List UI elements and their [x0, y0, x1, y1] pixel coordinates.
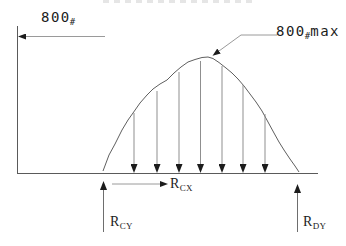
- reaction-dy-base: R: [303, 214, 313, 229]
- reaction-cx-base: R: [170, 176, 180, 191]
- reaction-cy-base: R: [110, 214, 120, 229]
- reaction-label-cy: RCY: [110, 215, 133, 229]
- pound-symbol: #: [70, 17, 75, 27]
- reaction-label-dy: RDY: [303, 215, 326, 229]
- reaction-cx-subscript: CX: [180, 183, 193, 193]
- load-arrows-group: [134, 61, 265, 164]
- peak-load-suffix: max: [310, 23, 340, 39]
- pound-symbol: #: [305, 31, 310, 41]
- reaction-label-cx: RCX: [170, 177, 193, 191]
- reaction-cy-subscript: CY: [120, 221, 133, 231]
- load-dimension-value: 800: [41, 9, 71, 25]
- peak-load-label: 800#max: [276, 24, 340, 38]
- peak-load-value: 800: [276, 23, 306, 39]
- peak-load-leader-arrow: [219, 35, 277, 51]
- load-diagram-figure: 800# 800#max RCX RCY RDY: [0, 0, 346, 246]
- load-dimension-label: 800#: [41, 10, 75, 24]
- reaction-dy-subscript: DY: [313, 221, 327, 231]
